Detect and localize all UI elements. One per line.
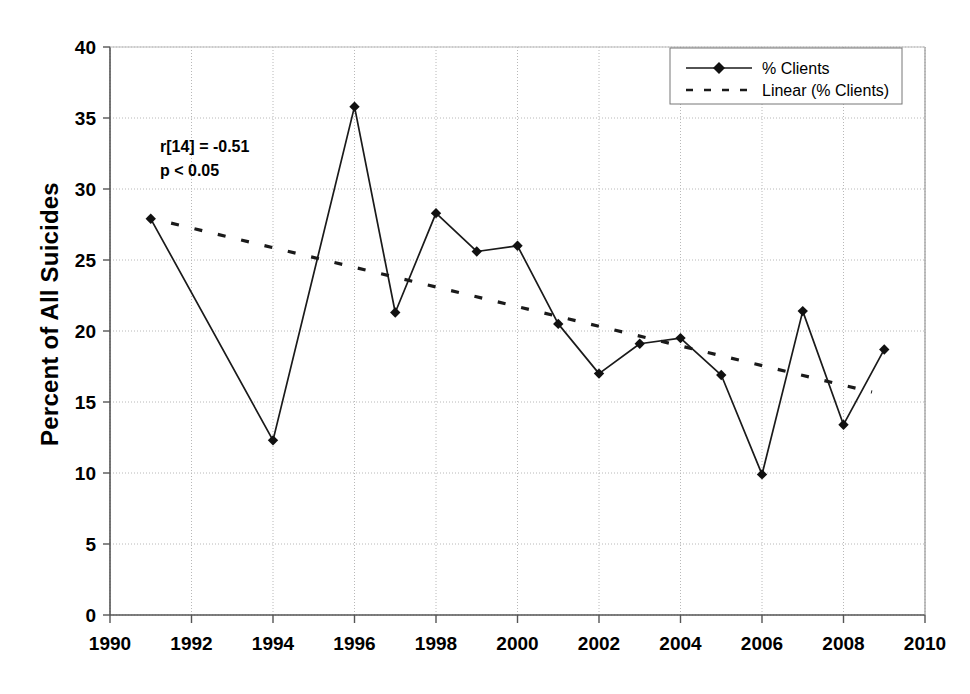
x-tick-label: 2008: [822, 633, 864, 654]
line-chart-canvas: 0510152025303540 19901992199419961998200…: [0, 0, 970, 694]
y-tick-label: 25: [75, 250, 97, 271]
data-point-diamond-icon: [390, 307, 400, 317]
x-tick-label: 2010: [904, 633, 946, 654]
legend-label-trendline: Linear (% Clients): [762, 82, 889, 99]
stats-annotation: r[14] = -0.51 p < 0.05: [160, 138, 249, 179]
y-tick-label: 20: [75, 321, 96, 342]
x-tick-label: 2002: [578, 633, 620, 654]
x-tick-label: 1994: [252, 633, 295, 654]
y-tick-label: 5: [85, 534, 96, 555]
data-point-diamond-icon: [349, 101, 359, 111]
y-tick-label: 10: [75, 463, 96, 484]
trendline-series: [171, 223, 872, 392]
stats-correlation: r[14] = -0.51: [160, 138, 249, 155]
y-tick-label: 30: [75, 179, 96, 200]
trendline-path: [171, 223, 872, 392]
data-point-diamond-icon: [512, 241, 522, 251]
x-tick-label: 2004: [659, 633, 702, 654]
data-point-diamond-icon: [879, 344, 889, 354]
legend-label-clients: % Clients: [762, 60, 830, 77]
y-tick-label: 35: [75, 108, 97, 129]
data-point-diamond-icon: [268, 435, 278, 445]
data-point-diamond-icon: [757, 469, 767, 479]
y-axis-ticks: 0510152025303540: [75, 37, 110, 626]
x-tick-label: 1998: [415, 633, 457, 654]
y-tick-label: 40: [75, 37, 96, 58]
x-tick-label: 1992: [170, 633, 212, 654]
chart-figure: Percent of All Suicides 0510152025303540…: [0, 0, 970, 694]
plot-border: [110, 47, 925, 615]
grid-layer: [110, 47, 925, 615]
x-axis-ticks: 1990199219941996199820002002200420062008…: [89, 615, 946, 654]
x-tick-label: 2006: [741, 633, 783, 654]
data-point-diamond-icon: [798, 306, 808, 316]
data-point-diamond-icon: [838, 420, 848, 430]
y-tick-label: 0: [85, 605, 96, 626]
x-tick-label: 1990: [89, 633, 131, 654]
chart-legend: % Clients Linear (% Clients): [670, 48, 902, 104]
x-tick-label: 2000: [496, 633, 538, 654]
x-tick-label: 1996: [333, 633, 375, 654]
stats-pvalue: p < 0.05: [160, 162, 219, 179]
data-point-diamond-icon: [146, 214, 156, 224]
y-tick-label: 15: [75, 392, 97, 413]
